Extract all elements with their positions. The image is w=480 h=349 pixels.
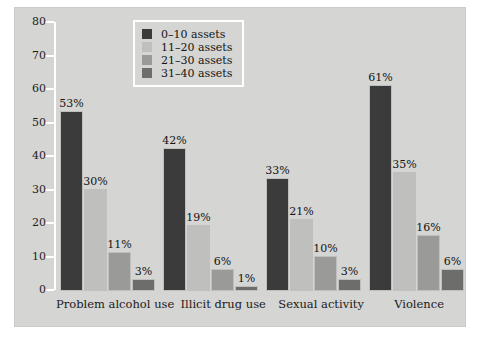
bar-value-label: 6% [444,256,461,267]
bar-value-label: 1% [238,273,255,284]
y-axis-tick-label: 70 [20,50,46,61]
bar-value-label: 30% [83,176,107,187]
bar [61,112,82,290]
bar [418,236,439,290]
y-axis-tick [45,21,54,23]
y-axis-tick-label: 0 [20,284,46,295]
bar-value-label: 10% [313,243,337,254]
bar-value-label: 3% [135,266,152,277]
bar [370,86,391,290]
bar-column: 30% [85,22,106,290]
x-axis-category-label: Problem alcohol use [56,296,174,318]
bar-value-label: 61% [368,72,392,83]
bar [212,270,233,290]
bar-column: 6% [442,22,463,290]
y-axis-tick [45,88,54,90]
y-axis-tick-label: 80 [20,16,46,27]
bar-value-label: 16% [416,222,440,233]
bar [267,179,288,290]
y-axis-tick-label: 50 [20,117,46,128]
bar-value-label: 11% [107,239,131,250]
bar-value-label: 42% [162,135,186,146]
y-axis-tick-label: 30 [20,184,46,195]
legend-item: 0–10 assets [142,28,232,40]
bar-column: 21% [291,22,312,290]
bar-column: 10% [315,22,336,290]
plot-area: 53%30%11%3%42%19%6%1%33%21%10%3%61%35%16… [56,22,468,290]
legend-item: 11–20 assets [142,41,232,53]
legend-label: 31–40 assets [161,68,232,79]
y-axis-tick [45,189,54,191]
legend-label: 21–30 assets [161,55,232,66]
bar-column: 33% [267,22,288,290]
bar-chart: 80706050403020100 53%30%11%3%42%19%6%1%3… [0,0,480,349]
y-axis-tick-labels: 80706050403020100 [14,0,46,318]
bar [236,287,257,290]
chart-legend: 0–10 assets11–20 assets21–30 assets31–40… [133,20,244,87]
bar [109,253,130,290]
bar-column: 35% [394,22,415,290]
y-axis-tick [45,289,54,291]
bar [315,257,336,291]
legend-swatch-icon [142,42,152,52]
bar [133,280,154,290]
bar-group: 33%21%10%3% [262,22,365,290]
bar [164,149,185,290]
bar [188,226,209,290]
bar-value-label: 35% [392,159,416,170]
legend-label: 0–10 assets [161,29,225,40]
legend-swatch-icon [142,68,152,78]
y-axis-tick-label: 40 [20,150,46,161]
legend-swatch-icon [142,55,152,65]
bar [85,190,106,291]
y-axis-tick-label: 20 [20,217,46,228]
y-axis-tick-label: 60 [20,83,46,94]
bar-value-label: 3% [341,266,358,277]
bar [394,173,415,290]
x-axis-category-label: Violence [370,296,468,318]
legend-item: 21–30 assets [142,54,232,66]
bar-value-label: 6% [214,256,231,267]
bar-column: 53% [61,22,82,290]
legend-label: 11–20 assets [161,42,232,53]
y-axis-tick [45,122,54,124]
x-axis-category-labels: Problem alcohol useIllicit drug useSexua… [56,296,468,318]
y-axis-tick [45,222,54,224]
bar-value-label: 21% [289,206,313,217]
bar-column: 3% [339,22,360,290]
bar-groups: 53%30%11%3%42%19%6%1%33%21%10%3%61%35%16… [56,22,468,290]
x-axis-category-label: Illicit drug use [174,296,272,318]
y-axis-tick-label: 10 [20,251,46,262]
bar-column: 11% [109,22,130,290]
bar [291,220,312,290]
bar-value-label: 19% [186,212,210,223]
legend-swatch-icon [142,29,152,39]
bar-column: 61% [370,22,391,290]
bar [339,280,360,290]
bar-value-label: 53% [59,98,83,109]
bar-group: 61%35%16%6% [365,22,468,290]
legend-item: 31–40 assets [142,67,232,79]
bar-column: 16% [418,22,439,290]
y-axis-tick [45,256,54,258]
y-axis-tick [45,155,54,157]
bar-value-label: 33% [265,165,289,176]
y-axis-tick [45,55,54,57]
bar [442,270,463,290]
x-axis-category-label: Sexual activity [272,296,370,318]
